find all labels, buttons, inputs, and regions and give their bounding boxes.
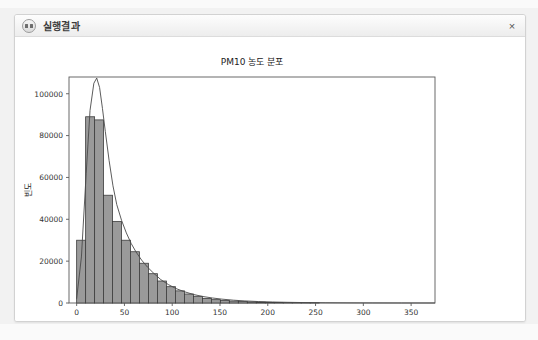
histogram-bar <box>166 287 175 303</box>
window-title: 실행결과 <box>43 18 80 33</box>
histogram-bar <box>140 263 149 303</box>
histogram-bar <box>104 195 113 303</box>
y-axis: 020000400006000080000100000 <box>34 90 69 308</box>
y-tick-label: 60000 <box>39 173 63 182</box>
histogram-bar <box>256 302 265 303</box>
x-tick-label: 300 <box>356 308 371 317</box>
histogram-chart: PM10 농도 분포050100150200250300350020000400… <box>15 37 525 321</box>
histogram-bar <box>131 252 140 303</box>
app-circle-icon <box>22 19 36 33</box>
x-tick-label: 0 <box>74 308 79 317</box>
histogram-bar <box>149 274 158 303</box>
histogram-bar <box>229 301 238 303</box>
histogram-bar <box>193 296 202 303</box>
window-titlebar: 실행결과 × <box>15 15 525 37</box>
x-axis: 050100150200250300350 <box>74 303 418 317</box>
x-tick-label: 250 <box>308 308 323 317</box>
x-tick-label: 350 <box>404 308 419 317</box>
x-tick-label: 200 <box>261 308 276 317</box>
close-icon[interactable]: × <box>499 16 525 36</box>
chart-title: PM10 농도 분포 <box>221 57 283 67</box>
histogram-bar <box>247 302 256 303</box>
y-axis-label: 빈도 <box>24 183 33 197</box>
figure-container: PM10 농도 분포050100150200250300350020000400… <box>15 37 525 321</box>
y-tick-label: 80000 <box>39 131 63 140</box>
histogram-bar <box>86 117 95 303</box>
histogram-bar <box>122 240 131 303</box>
y-tick-label: 20000 <box>39 257 63 266</box>
y-tick-label: 0 <box>58 299 63 308</box>
histogram-bar <box>157 281 166 303</box>
histogram-bar <box>175 291 184 303</box>
histogram-bar <box>184 294 193 303</box>
x-tick-label: 50 <box>120 308 130 317</box>
histogram-bar <box>238 302 247 303</box>
histogram-bar <box>113 221 122 303</box>
histogram-bar <box>77 240 86 303</box>
bar-group <box>77 117 320 303</box>
histogram-bar <box>202 298 211 303</box>
x-tick-label: 150 <box>213 308 228 317</box>
histogram-bar <box>95 120 104 303</box>
x-tick-label: 100 <box>165 308 180 317</box>
y-tick-label: 100000 <box>34 90 63 99</box>
result-window: 실행결과 × PM10 농도 분포05010015020025030035002… <box>14 14 526 322</box>
y-tick-label: 40000 <box>39 215 63 224</box>
histogram-bar <box>220 300 229 303</box>
histogram-bar <box>265 302 274 303</box>
histogram-bar <box>211 300 220 303</box>
